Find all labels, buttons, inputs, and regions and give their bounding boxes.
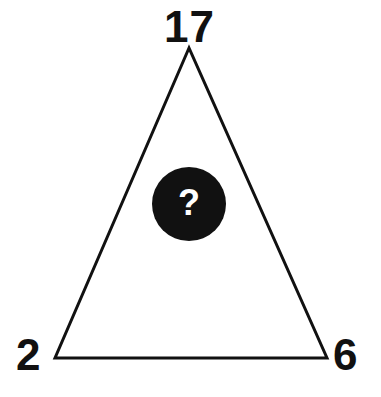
question-mark-circle-icon: ? (152, 167, 226, 241)
top-vertex-number: 17 (164, 5, 215, 49)
number-triangle-puzzle: 17 2 6 ? (0, 0, 381, 397)
bottom-right-vertex-number: 6 (333, 333, 357, 377)
bottom-left-vertex-number: 2 (16, 333, 40, 377)
question-mark-glyph: ? (178, 185, 200, 221)
